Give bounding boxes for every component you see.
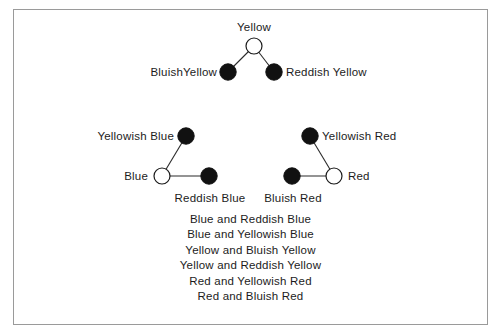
node-yellowish-red[interactable]	[302, 128, 318, 144]
node-blue[interactable]	[154, 168, 170, 184]
label-yellowish-blue: Yellowish Blue	[60, 130, 174, 143]
node-reddish-yellow[interactable]	[266, 64, 282, 80]
label-yellow: Yellow	[214, 21, 294, 34]
node-yellow[interactable]	[246, 38, 262, 54]
label-yellowish-red: Yellowish Red	[322, 130, 432, 143]
label-reddish-blue: Reddish Blue	[169, 192, 251, 205]
node-bluish-red[interactable]	[284, 168, 300, 184]
label-bluish-red: Bluish Red	[257, 192, 329, 205]
node-reddish-blue[interactable]	[201, 168, 217, 184]
label-reddish-yellow: Reddish Yellow	[286, 66, 416, 79]
label-blue: Blue	[70, 170, 148, 183]
caption-line: Red and Bluish Red	[13, 289, 488, 304]
figure-root: Yellow BluishYellow Reddish Yellow Yello…	[0, 0, 502, 335]
label-red: Red	[348, 170, 408, 183]
caption-line: Yellow and Reddish Yellow	[13, 258, 488, 273]
caption-line: Yellow and Bluish Yellow	[13, 243, 488, 258]
caption-list: Blue and Reddish Blue Blue and Yellowish…	[13, 212, 488, 304]
node-red[interactable]	[326, 168, 342, 184]
label-bluish-yellow: BluishYellow	[90, 66, 217, 79]
caption-line: Red and Yellowish Red	[13, 274, 488, 289]
node-yellowish-blue[interactable]	[178, 128, 194, 144]
node-bluish-yellow[interactable]	[220, 64, 236, 80]
caption-line: Blue and Yellowish Blue	[13, 227, 488, 242]
caption-line: Blue and Reddish Blue	[13, 212, 488, 227]
